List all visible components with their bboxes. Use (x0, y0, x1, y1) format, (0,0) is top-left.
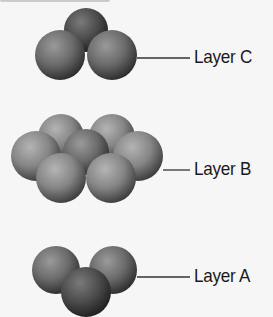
sphere (61, 267, 111, 317)
sphere (36, 153, 86, 203)
layer-c-spheres (35, 8, 190, 80)
layer-a-label: Layer A (194, 265, 250, 287)
layer-c-label: Layer C (194, 46, 252, 68)
sphere (87, 30, 137, 80)
sphere (86, 153, 136, 203)
layer-a-spheres (32, 246, 190, 317)
layer-b-label: Layer B (194, 158, 251, 180)
layer-b-spheres (11, 114, 190, 203)
sphere (35, 30, 85, 80)
